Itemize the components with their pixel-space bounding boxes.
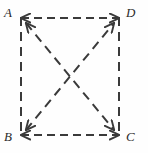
vertex-label-d: D [126, 6, 135, 19]
vertex-label-a: A [4, 6, 12, 19]
vertex-label-c: C [126, 130, 135, 143]
geometry-figure: A D B C [0, 0, 148, 153]
diagonals [26, 23, 114, 130]
vertex-label-b: B [4, 130, 12, 143]
